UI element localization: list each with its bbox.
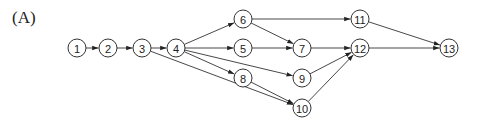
node-label: 6 [240,14,246,26]
nodes-group: 12345678910111213 [68,10,458,117]
node-label: 11 [354,14,365,26]
edge-11-13 [369,22,440,45]
node-6: 6 [234,10,252,28]
node-label: 9 [299,73,305,85]
node-label: 4 [173,43,179,55]
edge-4-8 [184,52,234,74]
node-label: 3 [139,43,145,55]
network-diagram: 12345678910111213 [0,0,480,126]
node-label: 1 [74,43,80,55]
node-label: 5 [240,43,246,55]
node-8: 8 [234,69,252,87]
edge-8-10 [251,82,294,104]
node-3: 3 [133,39,151,57]
node-11: 11 [351,10,369,28]
node-5: 5 [234,39,252,57]
node-4: 4 [167,39,185,57]
node-10: 10 [293,99,311,117]
edge-6-7 [251,23,293,44]
node-12: 12 [351,39,369,57]
node-label: 8 [240,73,246,85]
node-label: 13 [443,43,455,55]
edge-10-12 [308,55,353,102]
edges-group [86,19,440,105]
node-label: 12 [354,43,366,55]
node-1: 1 [68,39,86,57]
node-label: 2 [105,43,111,55]
node-13: 13 [440,39,458,57]
node-label: 7 [299,43,305,55]
node-7: 7 [293,39,311,57]
node-9: 9 [293,69,311,87]
edge-4-6 [184,23,234,45]
node-label: 10 [296,103,308,115]
node-2: 2 [99,39,117,57]
